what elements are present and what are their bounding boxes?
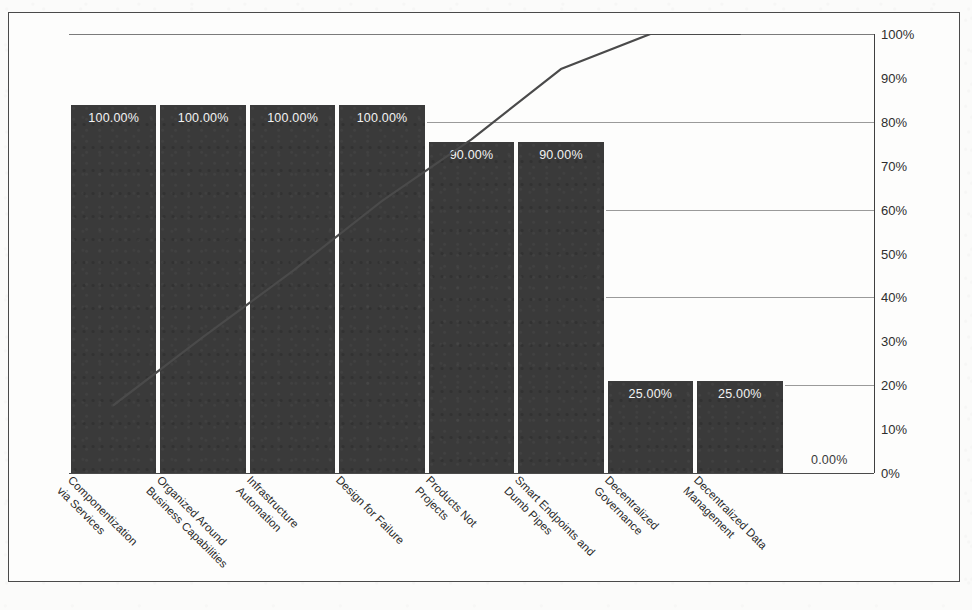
bar-value-label: 90.00% (429, 148, 514, 162)
x-axis-category-label: Decentralized DataManagement (680, 473, 770, 563)
pareto-chart-frame: 100.00%100.00%100.00%100.00%90.00%90.00%… (8, 12, 960, 582)
y-axis-tick: 10% (881, 422, 907, 437)
bar-texture (429, 142, 514, 473)
bar-texture (250, 105, 335, 473)
x-axis-category-label: InfrastructureAutomation (233, 473, 302, 542)
x-axis-category-line: Design for Failure (333, 473, 408, 548)
y-axis-line (874, 34, 875, 473)
bar[interactable]: 100.00% (337, 105, 426, 473)
y-axis-tick: 30% (881, 334, 907, 349)
y-axis-tick: 40% (881, 290, 907, 305)
x-axis-category-label: Design for Failure (333, 473, 408, 548)
bar-value-label: 100.00% (160, 111, 245, 125)
plot-area: 100.00%100.00%100.00%100.00%90.00%90.00%… (69, 34, 874, 473)
y-axis-tick: 50% (881, 246, 907, 261)
y-axis-tick-labels: 0%10%20%30%40%50%60%70%80%90%100% (881, 13, 951, 583)
bar[interactable]: 100.00% (158, 105, 247, 473)
bar-texture (339, 105, 424, 473)
y-axis-tick: 0% (881, 466, 900, 481)
y-axis-tick: 60% (881, 202, 907, 217)
x-axis-category-labels: Componentizationvia ServicesOrganized Ar… (69, 473, 874, 583)
bar-texture (518, 142, 603, 473)
x-axis-category-label: DecentralizedGovernance (591, 473, 662, 544)
y-axis-tick: 90% (881, 70, 907, 85)
scanned-page: THE MICROSERVICES LANDSCAPE 100.00%100.0… (0, 0, 972, 610)
y-axis-tick: 70% (881, 158, 907, 173)
bar[interactable]: 90.00% (516, 142, 605, 473)
bar[interactable]: 100.00% (248, 105, 337, 473)
bar[interactable]: 25.00% (606, 381, 695, 473)
bar[interactable]: 25.00% (695, 381, 784, 473)
y-axis-tick: 80% (881, 114, 907, 129)
bar-value-label: 90.00% (518, 148, 603, 162)
bar-value-label: 25.00% (608, 387, 693, 401)
bar-value-label: 100.00% (339, 111, 424, 125)
x-axis-category-label: Products NotProjects (412, 473, 480, 541)
x-axis-category-label: Componentizationvia Services (54, 473, 140, 559)
bar-value-label: 100.00% (71, 111, 156, 125)
bar-value-label: 0.00% (785, 453, 874, 467)
y-axis-tick: 100% (881, 27, 914, 42)
y-axis-tick: 20% (881, 378, 907, 393)
bar-value-label: 100.00% (250, 111, 335, 125)
x-axis-category-label: Smart Endpoints andDumb Pipes (501, 473, 598, 570)
bar[interactable]: 90.00% (427, 142, 516, 473)
bar[interactable]: 100.00% (69, 105, 158, 473)
x-axis-category-label: Organized AroundBusiness Capabilities (144, 473, 242, 571)
bar-texture (160, 105, 245, 473)
bar-texture (71, 105, 156, 473)
bar-value-label: 25.00% (697, 387, 782, 401)
bars-layer: 100.00%100.00%100.00%100.00%90.00%90.00%… (69, 34, 874, 473)
